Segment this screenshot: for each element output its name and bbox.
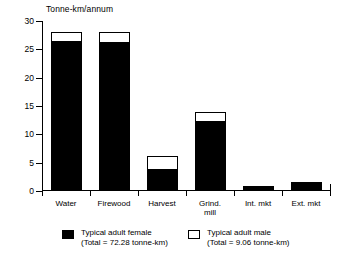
legend-label-female: Typical adult female(Total = 72.28 tonne…	[81, 228, 168, 247]
x-tick-label: Harvest	[138, 199, 186, 208]
bar-water	[51, 21, 82, 191]
y-tick-label: 0	[2, 187, 34, 196]
legend-item-female: Typical adult female(Total = 72.28 tonne…	[62, 228, 168, 247]
stacked-bar-chart: Tonne-km/annum 051015202530 WaterFirewoo…	[0, 0, 341, 260]
legend-label-male: Typical adult male(Total = 9.06 tonne-km…	[207, 228, 289, 247]
x-tick-label: Firewood	[90, 199, 138, 208]
x-tick-label: Water	[42, 199, 90, 208]
bar-firewood	[99, 21, 130, 191]
legend-swatch-male-icon	[188, 230, 200, 239]
bar-ext-mkt	[291, 21, 322, 191]
x-tick-mark	[90, 191, 91, 196]
bar-segment-male	[291, 182, 322, 184]
bar-segment-female	[99, 43, 130, 191]
legend-item-male: Typical adult male(Total = 9.06 tonne-km…	[188, 228, 289, 247]
y-tick-label: 20	[2, 74, 34, 83]
y-tick-label: 25	[2, 45, 34, 54]
bar-segment-male	[243, 186, 274, 188]
y-tick-label: 5	[2, 159, 34, 168]
x-tick-mark	[138, 191, 139, 196]
y-tick-label: 15	[2, 102, 34, 111]
x-tick-label: Ext. mkt	[282, 199, 330, 208]
legend-swatch-female-icon	[62, 230, 74, 239]
bar-segment-female	[51, 42, 82, 191]
chart-legend: Typical adult female(Total = 72.28 tonne…	[62, 228, 332, 254]
plot-area	[42, 21, 330, 191]
y-axis-title: Tonne-km/annum	[46, 4, 113, 14]
x-tick-label: Grind. mill	[186, 199, 234, 217]
x-tick-label: Int. mkt	[234, 199, 282, 208]
bar-segment-female	[243, 188, 274, 191]
x-tick-mark	[186, 191, 187, 196]
bar-segment-female	[195, 122, 226, 191]
bar-segment-male	[51, 32, 82, 42]
x-tick-mark	[234, 191, 235, 196]
x-tick-mark	[282, 191, 283, 196]
y-tick-label: 10	[2, 130, 34, 139]
bar-harvest	[147, 21, 178, 191]
x-axis-right-cap	[330, 184, 331, 191]
x-tick-mark	[42, 191, 43, 196]
y-tick-label: 30	[2, 17, 34, 26]
bar-segment-female	[147, 170, 178, 191]
bar-int-mkt	[243, 21, 274, 191]
bar-segment-male	[147, 156, 178, 169]
bar-segment-female	[291, 184, 322, 191]
x-tick-mark	[330, 191, 331, 196]
bar-segment-male	[99, 32, 130, 43]
bar-grind-mill	[195, 21, 226, 191]
bar-segment-male	[195, 112, 226, 122]
